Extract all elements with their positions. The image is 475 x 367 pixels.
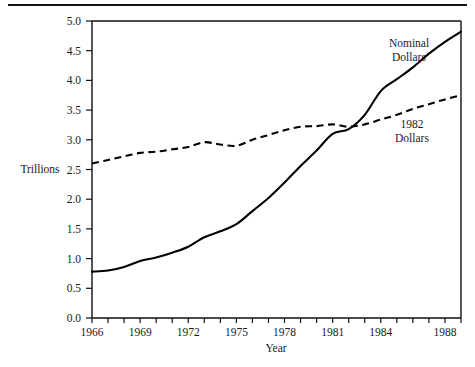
y-tick-label: 2.5 bbox=[67, 164, 82, 176]
x-axis-title: Year bbox=[265, 342, 286, 354]
x-tick-marks bbox=[92, 318, 461, 323]
x-tick-label: 1988 bbox=[433, 326, 456, 338]
y-tick-label: 2.0 bbox=[67, 193, 82, 205]
y-tick-label: 0.5 bbox=[67, 282, 82, 294]
annotation-nominal-line2: Dollars bbox=[392, 51, 426, 63]
annotation-nominal-line1: Nominal bbox=[389, 37, 429, 49]
x-tick-label: 1984 bbox=[369, 326, 392, 338]
y-tick-label: 3.5 bbox=[67, 104, 82, 116]
annotation-real-line2: Dollars bbox=[395, 132, 429, 144]
x-tick-label: 1966 bbox=[81, 326, 104, 338]
y-tick-label: 3.0 bbox=[67, 134, 82, 146]
annotation-nominal-dollars: Nominal Dollars bbox=[389, 37, 429, 63]
y-tick-label: 4.0 bbox=[67, 74, 82, 86]
chart-figure: 5.0 4.5 4.0 3.5 3.0 2.5 2.0 1.5 1.0 0.5 … bbox=[0, 0, 475, 367]
x-tick-label: 1978 bbox=[273, 326, 296, 338]
y-tick-label: 5.0 bbox=[67, 15, 82, 27]
x-tick-label: 1969 bbox=[129, 326, 152, 338]
y-axis-title: Trillions bbox=[20, 163, 60, 175]
x-tick-label: 1975 bbox=[225, 326, 248, 338]
y-tick-label: 0.0 bbox=[67, 312, 82, 324]
series-line-nominal-dollars bbox=[92, 32, 461, 272]
y-tick-label: 4.5 bbox=[67, 45, 82, 57]
y-tick-label: 1.5 bbox=[67, 223, 82, 235]
y-tick-labels: 5.0 4.5 4.0 3.5 3.0 2.5 2.0 1.5 1.0 0.5 … bbox=[67, 15, 82, 324]
line-chart-plot: 5.0 4.5 4.0 3.5 3.0 2.5 2.0 1.5 1.0 0.5 … bbox=[0, 0, 475, 367]
x-tick-labels: 19661969197219751978198119841988 bbox=[81, 326, 457, 338]
annotation-1982-dollars: 1982 Dollars bbox=[395, 118, 429, 144]
axis-group bbox=[92, 21, 461, 318]
y-tick-marks bbox=[86, 21, 92, 318]
x-tick-label: 1972 bbox=[177, 326, 200, 338]
y-tick-label: 1.0 bbox=[67, 253, 82, 265]
annotation-real-line1: 1982 bbox=[401, 118, 424, 130]
x-tick-label: 1981 bbox=[321, 326, 344, 338]
